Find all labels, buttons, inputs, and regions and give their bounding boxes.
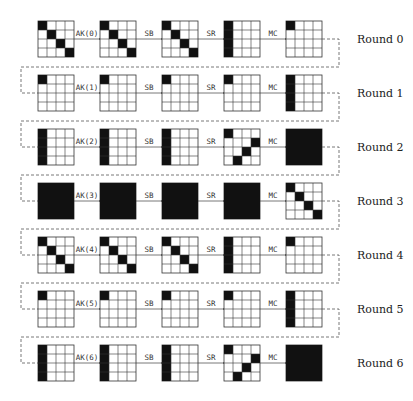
state-grid: [38, 21, 74, 57]
active-cell: [242, 363, 251, 372]
op-label: SR: [206, 299, 216, 308]
active-cell: [189, 264, 198, 273]
active-cell: [171, 246, 180, 255]
state-grid: [162, 21, 198, 57]
active-cell: [56, 255, 65, 264]
active-cell: [162, 345, 171, 354]
state-grid: [224, 237, 260, 273]
op-label: MC: [268, 245, 277, 254]
active-cell: [162, 291, 171, 300]
state-grid: [286, 345, 322, 381]
active-cell: [162, 75, 171, 84]
op-label: SR: [206, 245, 216, 254]
active-cell: [286, 84, 295, 93]
active-cell: [118, 255, 127, 264]
state-grid: [38, 291, 74, 327]
active-cell: [38, 237, 47, 246]
state-grid: [100, 21, 136, 57]
active-cell: [180, 255, 189, 264]
state-grid: [224, 129, 260, 165]
active-cell: [38, 156, 47, 165]
active-cell: [38, 75, 47, 84]
active-cell: [65, 48, 74, 57]
active-cell: [224, 129, 233, 138]
state-grid: [100, 291, 136, 327]
active-cell: [100, 183, 136, 219]
state-grid: [286, 75, 322, 111]
active-cell: [286, 300, 295, 309]
state-grid: [100, 237, 136, 273]
op-label: SR: [206, 137, 216, 146]
active-cell: [162, 129, 171, 138]
active-cell: [100, 354, 109, 363]
round-label: Round 4: [357, 249, 404, 262]
round-label: Round 5: [357, 303, 404, 316]
active-cell: [224, 183, 260, 219]
active-cell: [286, 309, 295, 318]
state-grid: [38, 75, 74, 111]
state-grid: [162, 345, 198, 381]
active-cell: [38, 21, 47, 30]
active-cell: [304, 201, 313, 210]
op-label: SB: [144, 83, 154, 92]
op-label: MC: [268, 137, 277, 146]
op-label: MC: [268, 353, 277, 362]
active-cell: [162, 138, 171, 147]
active-cell: [38, 354, 47, 363]
op-label: SR: [206, 29, 216, 38]
state-grid: [162, 291, 198, 327]
active-cell: [162, 147, 171, 156]
active-cell: [295, 192, 304, 201]
op-label: AK(3): [76, 191, 99, 200]
active-cell: [286, 183, 295, 192]
active-cell: [109, 30, 118, 39]
active-cell: [286, 237, 295, 246]
active-cell: [286, 75, 295, 84]
active-cell: [224, 75, 233, 84]
op-label: SR: [206, 83, 216, 92]
active-cell: [242, 147, 251, 156]
active-cell: [162, 183, 198, 219]
state-grid: [162, 75, 198, 111]
active-cell: [38, 183, 74, 219]
op-label: SB: [144, 29, 154, 38]
active-cell: [100, 138, 109, 147]
op-label: SB: [144, 245, 154, 254]
active-cell: [224, 21, 233, 30]
active-cell: [100, 21, 109, 30]
state-grid: [38, 237, 74, 273]
active-cell: [286, 345, 322, 381]
active-cell: [109, 246, 118, 255]
state-grid: [286, 21, 322, 57]
active-cell: [286, 318, 295, 327]
round-label: Round 3: [357, 195, 404, 208]
op-label: SR: [206, 353, 216, 362]
active-cell: [313, 210, 322, 219]
active-cell: [171, 30, 180, 39]
state-grid: [100, 183, 136, 219]
state-grid: [224, 75, 260, 111]
active-cell: [38, 147, 47, 156]
round-label: Round 0: [357, 33, 404, 46]
active-cell: [162, 372, 171, 381]
op-label: SR: [206, 191, 216, 200]
active-cell: [127, 48, 136, 57]
active-cell: [118, 39, 127, 48]
active-cell: [100, 372, 109, 381]
active-cell: [162, 354, 171, 363]
active-cell: [224, 237, 233, 246]
active-cell: [100, 291, 109, 300]
active-cell: [162, 237, 171, 246]
active-cell: [100, 129, 109, 138]
active-cell: [100, 147, 109, 156]
round-row-6: AK(6)SBSRMCRound 6: [38, 345, 404, 381]
active-cell: [127, 264, 136, 273]
active-cell: [224, 39, 233, 48]
active-cell: [38, 138, 47, 147]
active-cell: [38, 363, 47, 372]
state-grid: [38, 345, 74, 381]
active-cell: [162, 21, 171, 30]
active-cell: [224, 246, 233, 255]
state-grid: [38, 183, 74, 219]
active-cell: [251, 138, 260, 147]
